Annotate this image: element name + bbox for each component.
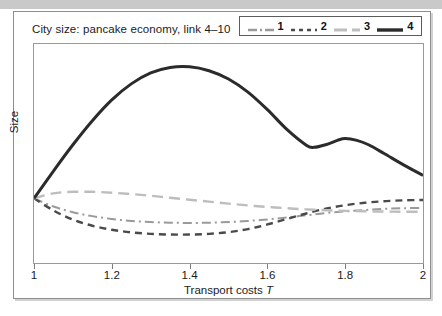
x-axis-label-symbol: T xyxy=(266,284,273,296)
legend-entry-4[interactable]: 4 xyxy=(374,20,417,32)
x-tick-label: 2 xyxy=(420,269,426,281)
legend-line-swatch-1 xyxy=(248,21,274,31)
legend-label-2: 2 xyxy=(321,20,327,32)
x-tick-label: 1 xyxy=(31,269,37,281)
legend-entry-3[interactable]: 3 xyxy=(331,20,374,32)
x-tick-label: 1.2 xyxy=(104,269,120,281)
legend-label-4: 4 xyxy=(407,20,413,32)
x-tick-label: 1.8 xyxy=(337,269,353,281)
x-tick-label: 1.6 xyxy=(259,269,275,281)
x-tick-label: 1.4 xyxy=(182,269,198,281)
legend-line-swatch-3 xyxy=(334,21,360,31)
y-axis-label: Size xyxy=(8,92,20,152)
page-top-band xyxy=(0,0,442,9)
series-line-4 xyxy=(34,66,423,198)
figure-card: City size: pancake economy, link 4–10 1 … xyxy=(13,11,431,299)
legend-label-3: 3 xyxy=(364,20,370,32)
legend-entry-2[interactable]: 2 xyxy=(287,20,330,32)
page-bottom-band xyxy=(0,303,442,316)
figure-page: City size: pancake economy, link 4–10 1 … xyxy=(0,0,442,316)
chart-canvas xyxy=(34,44,423,263)
x-axis-ticks: 11.21.41.61.82 xyxy=(33,264,424,282)
x-axis-label: Transport costs T xyxy=(33,284,424,296)
x-axis-label-text: Transport costs xyxy=(184,284,263,296)
chart-legend: 1 2 3 xyxy=(239,16,422,36)
plot-area xyxy=(33,43,424,264)
legend-line-swatch-4 xyxy=(377,21,403,31)
legend-entry-1[interactable]: 1 xyxy=(244,20,287,32)
figure-title: City size: pancake economy, link 4–10 xyxy=(32,23,230,35)
legend-line-swatch-2 xyxy=(291,21,317,31)
legend-label-1: 1 xyxy=(278,20,284,32)
